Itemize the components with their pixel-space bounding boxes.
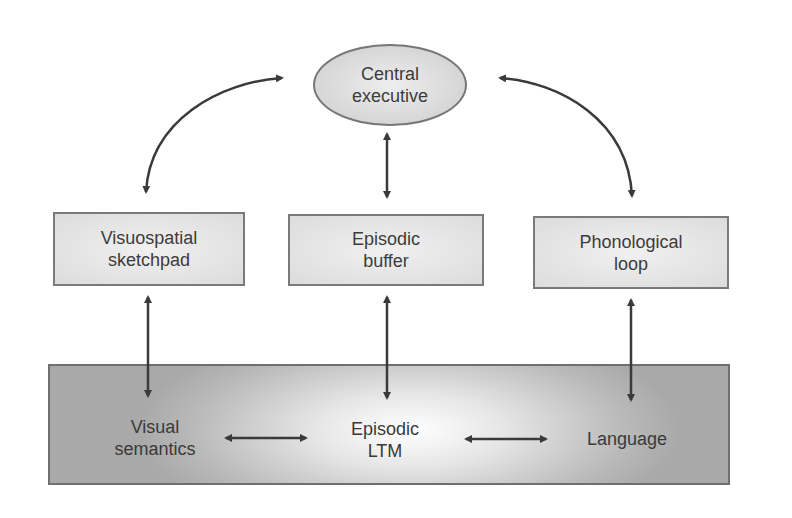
exec-to-loop-arrow	[500, 78, 632, 196]
connector-arrows	[0, 0, 792, 518]
exec-to-sketchpad-arrow	[146, 78, 282, 192]
